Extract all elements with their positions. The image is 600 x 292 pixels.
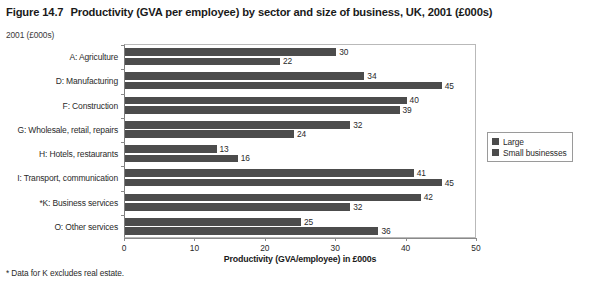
chart-bar-value-label: 36	[381, 226, 390, 236]
chart-bar-fill	[125, 179, 442, 187]
chart-bar-fill	[125, 130, 294, 138]
x-axis-tick	[265, 238, 266, 241]
chart-category-row: F: Construction4039	[125, 94, 475, 118]
y-axis-tick	[121, 166, 125, 167]
chart-bar-value-label: 24	[297, 129, 306, 139]
chart-bar[interactable]: 40	[125, 97, 407, 105]
y-axis-category-label: I: Transport, communication	[17, 173, 118, 183]
chart-bar-fill	[125, 169, 414, 177]
legend-item-label: Small businesses	[503, 148, 567, 158]
chart-bar[interactable]: 24	[125, 130, 294, 138]
chart-bar[interactable]: 39	[125, 106, 400, 114]
chart-bar[interactable]: 45	[125, 179, 442, 187]
y-axis-tick	[121, 142, 125, 143]
chart-bar[interactable]: 22	[125, 58, 280, 66]
chart-subtitle: 2001 (£000s)	[6, 30, 54, 40]
x-axis-tick-label: 20	[260, 243, 269, 253]
chart-bar[interactable]: 13	[125, 145, 217, 153]
chart-legend: LargeSmall businesses	[487, 132, 573, 162]
y-axis-category-label: F: Construction	[63, 101, 118, 111]
chart-bar[interactable]: 16	[125, 155, 238, 163]
chart-bar-fill	[125, 194, 421, 202]
legend-item[interactable]: Large	[492, 136, 567, 147]
chart-bar[interactable]: 32	[125, 121, 350, 129]
legend-swatch-icon	[492, 149, 499, 156]
x-axis-title: Productivity (GVA/employee) in £000s	[124, 254, 476, 264]
y-axis-category-label: H: Hotels, restaurants	[39, 149, 118, 159]
x-axis-tick-label: 40	[401, 243, 410, 253]
chart-bar-value-label: 45	[445, 177, 454, 187]
chart-bar[interactable]: 36	[125, 227, 378, 235]
chart-bar-value-label: 41	[417, 168, 426, 178]
chart-category-row: A: Agriculture3022	[125, 45, 475, 69]
chart-bar[interactable]: 32	[125, 203, 350, 211]
chart-bar-fill	[125, 48, 336, 56]
x-axis-tick-label: 30	[331, 243, 340, 253]
y-axis-tick	[121, 45, 125, 46]
x-axis-tick-label: 50	[471, 243, 480, 253]
chart-category-row: I: Transport, communication4145	[125, 166, 475, 190]
x-axis-tick-label: 0	[122, 243, 127, 253]
chart-bar-fill	[125, 72, 364, 80]
chart-bar[interactable]: 34	[125, 72, 364, 80]
chart-plot-area: A: Agriculture3022D: Manufacturing3445F:…	[124, 44, 476, 238]
legend-swatch-icon	[492, 138, 499, 145]
chart-bar-value-label: 13	[220, 144, 229, 154]
figure-title-text: Productivity (GVA per employee) by secto…	[70, 6, 492, 18]
chart-bar-value-label: 25	[304, 217, 313, 227]
y-axis-category-label: D: Manufacturing	[56, 76, 118, 86]
y-axis-category-label: O: Other services	[54, 222, 118, 232]
chart-bar-value-label: 42	[424, 192, 433, 202]
chart-bar-fill	[125, 82, 442, 90]
chart-bar[interactable]: 30	[125, 48, 336, 56]
y-axis-tick	[121, 191, 125, 192]
chart-bar-value-label: 39	[403, 105, 412, 115]
chart-category-row: O: Other services2536	[125, 215, 475, 239]
figure-number: Figure 14.7	[6, 6, 63, 18]
x-axis-tick-label: 10	[190, 243, 199, 253]
chart-category-row: *K: Business services4232	[125, 191, 475, 215]
chart-bar-fill	[125, 106, 400, 114]
chart-bar[interactable]: 25	[125, 218, 301, 226]
y-axis-tick	[121, 118, 125, 119]
chart-bar[interactable]: 41	[125, 169, 414, 177]
chart-bar-fill	[125, 155, 238, 163]
chart-footnote: * Data for K excludes real estate.	[6, 268, 124, 278]
legend-item[interactable]: Small businesses	[492, 147, 567, 158]
legend-item-label: Large	[503, 137, 524, 147]
chart-bar-fill	[125, 203, 350, 211]
chart-bar-value-label: 32	[353, 202, 362, 212]
x-axis-tick	[124, 238, 125, 241]
y-axis-category-label: A: Agriculture	[70, 52, 118, 62]
page-title: Figure 14.7Productivity (GVA per employe…	[6, 6, 592, 18]
chart-category-row: H: Hotels, restaurants1316	[125, 142, 475, 166]
chart-bar-fill	[125, 227, 378, 235]
y-axis-category-label: G: Wholesale, retail, repairs	[17, 125, 118, 135]
chart-bar-value-label: 30	[339, 47, 348, 57]
chart-bar-value-label: 22	[283, 56, 292, 66]
chart-bar-value-label: 34	[367, 71, 376, 81]
chart-bar-value-label: 32	[353, 120, 362, 130]
chart-bar-fill	[125, 58, 280, 66]
chart-bar-fill	[125, 218, 301, 226]
chart-bar-fill	[125, 121, 350, 129]
y-axis-tick	[121, 94, 125, 95]
x-axis-tick	[406, 238, 407, 241]
y-axis-tick	[121, 215, 125, 216]
x-axis-tick	[194, 238, 195, 241]
y-axis-category-label: *K: Business services	[39, 198, 118, 208]
x-axis-tick	[335, 238, 336, 241]
chart-bar-value-label: 16	[241, 153, 250, 163]
chart-bar-fill	[125, 145, 217, 153]
x-axis-tick	[476, 238, 477, 241]
chart-bar[interactable]: 45	[125, 82, 442, 90]
y-axis-tick	[121, 69, 125, 70]
chart-bar-value-label: 45	[445, 80, 454, 90]
chart-bar[interactable]: 42	[125, 194, 421, 202]
chart-category-row: G: Wholesale, retail, repairs3224	[125, 118, 475, 142]
chart-bar-fill	[125, 97, 407, 105]
x-axis-line: 01020304050	[124, 238, 476, 239]
chart-category-row: D: Manufacturing3445	[125, 69, 475, 93]
